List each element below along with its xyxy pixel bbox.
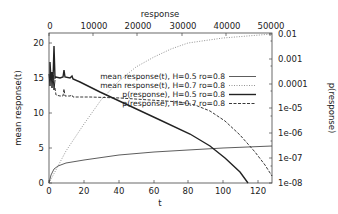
bottom-tick-labels: 0 20 40 60 80 100 120 bbox=[46, 186, 266, 196]
x2-tick: 0 bbox=[47, 21, 52, 31]
x2-axis-label: response bbox=[141, 9, 180, 19]
y-tick: 10 bbox=[33, 108, 44, 118]
legend-label: p(response), H=0.5 ro=0.8 bbox=[122, 90, 225, 99]
chart: 0 20 40 60 80 100 120 t 0 5 10 15 20 mea… bbox=[0, 0, 338, 214]
y2-tick: 0.01 bbox=[278, 29, 297, 39]
right-axis bbox=[269, 34, 272, 183]
x2-tick: 30000 bbox=[169, 21, 196, 31]
x2-tick: 40000 bbox=[213, 21, 240, 31]
y2-tick: 1e-06 bbox=[278, 128, 303, 138]
y2-tick: 1e-07 bbox=[278, 153, 303, 163]
x-tick: 40 bbox=[114, 186, 125, 196]
x-tick: 0 bbox=[46, 186, 51, 196]
legend-label: mean response(t), H=0.7 ro=0.8 bbox=[100, 81, 225, 90]
y2-tick: 0.001 bbox=[278, 54, 302, 64]
y-axis-label: mean response(t) bbox=[13, 70, 23, 145]
x-tick: 100 bbox=[215, 186, 231, 196]
x-tick: 80 bbox=[183, 186, 194, 196]
left-tick-labels: 0 5 10 15 20 bbox=[33, 38, 44, 188]
x-tick: 20 bbox=[79, 186, 90, 196]
top-axis bbox=[49, 33, 270, 36]
y-tick: 20 bbox=[33, 38, 44, 48]
legend-label: p(response), H=0.7 ro=0.8 bbox=[122, 99, 225, 108]
x-tick: 120 bbox=[250, 186, 266, 196]
y2-tick: 0.0001 bbox=[278, 79, 308, 89]
x2-tick: 20000 bbox=[124, 21, 151, 31]
y2-tick: 1e-08 bbox=[278, 178, 303, 188]
series-p-response-h05 bbox=[50, 46, 248, 183]
y-tick: 5 bbox=[39, 143, 44, 153]
x-tick: 60 bbox=[149, 186, 160, 196]
bottom-axis bbox=[49, 180, 258, 183]
x-axis-label: t bbox=[158, 198, 162, 208]
y2-axis-label: p(response) bbox=[327, 83, 337, 134]
x2-tick: 10000 bbox=[80, 21, 107, 31]
right-tick-labels: 0.01 0.001 0.0001 1e-05 1e-06 1e-07 1e-0… bbox=[278, 29, 308, 188]
top-tick-labels: 0 10000 20000 30000 40000 50000 bbox=[47, 21, 284, 31]
y-tick: 0 bbox=[39, 178, 44, 188]
legend: mean response(t), H=0.5 ro=0.8 mean resp… bbox=[100, 72, 256, 108]
legend-label: mean response(t), H=0.5 ro=0.8 bbox=[100, 72, 225, 81]
y2-tick: 1e-05 bbox=[278, 103, 303, 113]
y-tick: 15 bbox=[33, 73, 44, 83]
series-mean-response-h05 bbox=[49, 146, 272, 183]
